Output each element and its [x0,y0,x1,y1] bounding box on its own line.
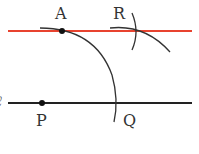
point-a [59,28,65,34]
arc-through-a-q [40,28,116,122]
point-p [39,100,45,106]
label-q: Q [123,113,136,129]
label-line-l: ℓ [0,94,2,108]
label-r: R [113,6,125,22]
label-p: P [36,113,47,129]
label-a: A [55,6,67,22]
construction-diagram [0,0,199,154]
